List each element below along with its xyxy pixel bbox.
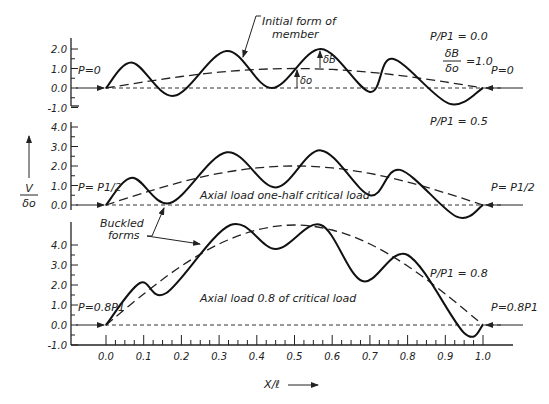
delta-b-label: δB (323, 54, 336, 65)
load-label-right: P=0.8P1 (491, 301, 538, 314)
x-tick-label: 0.1 (136, 351, 152, 362)
y-tick-label: 4.0 (51, 240, 67, 251)
y-tick-label: 1.0 (51, 300, 67, 311)
x-tick-label: 0.3 (211, 351, 227, 362)
y-tick-label: 2.0 (51, 161, 67, 172)
ratio-label: P/P1 = 0.8 (430, 267, 488, 280)
buckling-diagram: 2.01.00.0-1.0P/P1 = 0.0P=0P=04.03.02.01.… (0, 0, 549, 404)
y-tick-label: 1.0 (51, 64, 67, 75)
x-tick-label: 0.8 (400, 351, 416, 362)
y-tick-label: -1.0 (47, 103, 67, 114)
load-label-left: P=0.8P1 (78, 301, 125, 314)
load-label-left: P= P1/2 (78, 181, 122, 194)
ratio-value: =1.0 (466, 55, 493, 68)
x-tick-label: 0.4 (249, 351, 265, 362)
panel-caption: Axial load 0.8 of critical load (199, 292, 357, 305)
ratio-delta-den: δo (445, 62, 459, 75)
initial-form-leader (243, 16, 261, 57)
ratio-delta-num: δB (445, 47, 459, 60)
load-label-right: P= P1/2 (491, 181, 535, 194)
x-tick-label: 0.7 (362, 351, 379, 362)
x-tick-label: 0.9 (437, 351, 453, 362)
y-tick-label: -1.0 (47, 340, 67, 351)
y-tick-label: 3.0 (51, 260, 67, 271)
buckled-form-curve (106, 49, 483, 104)
y-tick-label: 0.0 (51, 83, 67, 94)
ratio-label: P/P1 = 0.5 (430, 115, 488, 128)
y-tick-label: 2.0 (51, 280, 67, 291)
panel-caption: Axial load one-half critical load (199, 189, 371, 202)
x-axis-label: X/ℓ (263, 378, 280, 391)
delta-o-label: δo (300, 75, 312, 86)
y-tick-label: 0.0 (51, 200, 67, 211)
buckled-form-curve (106, 224, 483, 337)
buckled-leader-1 (147, 208, 164, 236)
ratio-label: P/P1 = 0.0 (430, 30, 488, 43)
initial-form-label: Initial form of (262, 15, 338, 28)
buckled-leader-2 (147, 236, 200, 244)
load-label-right: P=0 (491, 64, 514, 77)
y-tick-label: 0.0 (51, 320, 67, 331)
x-tick-label: 0.5 (287, 351, 303, 362)
y-tick-label: 1.0 (51, 181, 67, 192)
y-tick-label: 4.0 (51, 122, 67, 133)
y-tick-label: 3.0 (51, 142, 67, 153)
buckled-forms-label: forms (108, 229, 140, 242)
labels-group: 2.01.00.0-1.0P/P1 = 0.0P=0P=04.03.02.01.… (20, 15, 538, 391)
y-axis-label-num: V (25, 182, 34, 195)
x-tick-label: 0.6 (324, 351, 340, 362)
buckled-form-curve (106, 150, 483, 218)
load-label-left: P=0 (78, 64, 101, 77)
x-tick-label: 1.0 (475, 351, 491, 362)
y-tick-label: 2.0 (51, 44, 67, 55)
initial-form-label: member (272, 28, 320, 41)
x-tick-label: 0.2 (173, 351, 189, 362)
y-axis-label-den: δo (22, 197, 36, 210)
x-tick-label: 0.0 (98, 351, 114, 362)
